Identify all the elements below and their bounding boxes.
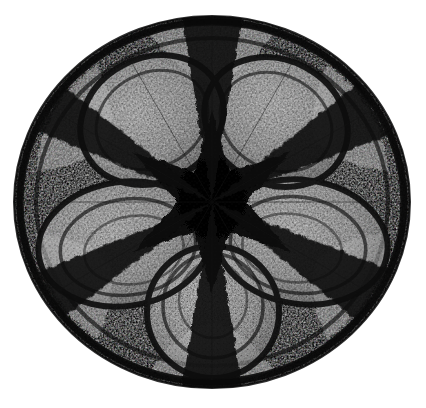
mandala-svg — [0, 0, 426, 408]
artwork-canvas: Circular Rosette Mandala Monochrome circ… — [0, 0, 426, 408]
